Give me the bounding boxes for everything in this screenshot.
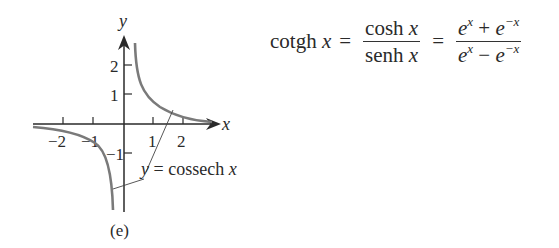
curve-negative-branch	[33, 127, 113, 210]
denominator: senh x	[363, 42, 420, 67]
y-ticks	[124, 65, 132, 153]
csch-graph: −2 −1 1 2 2 1 −1 y x y = cossech x (e)	[0, 0, 270, 248]
x-axis-label: x	[221, 114, 230, 134]
formula-lhs: cotgh x	[270, 29, 331, 54]
figure-caption: (e)	[110, 221, 129, 240]
svg-text:−2: −2	[48, 132, 66, 151]
svg-text:1: 1	[110, 86, 119, 105]
curve-positive-branch	[135, 43, 212, 122]
numerator: cosh x	[363, 16, 420, 42]
svg-text:2: 2	[110, 57, 119, 76]
numerator: ex + e−x	[456, 16, 521, 42]
denominator: ex − e−x	[456, 42, 521, 67]
fraction-cosh-over-senh: cosh x senh x	[363, 16, 420, 67]
cotgh-formula: cotgh x = cosh x senh x = ex + e−x ex − …	[270, 16, 525, 67]
equals-sign: =	[339, 29, 351, 54]
svg-text:−1: −1	[106, 145, 124, 164]
fraction-exponential: ex + e−x ex − e−x	[456, 16, 521, 67]
x-ticks	[63, 117, 183, 124]
svg-text:1: 1	[148, 132, 157, 151]
leader-line	[113, 179, 144, 189]
equals-sign: =	[432, 29, 444, 54]
y-axis-label: y	[117, 11, 127, 31]
svg-text:2: 2	[177, 132, 186, 151]
curve-label: y = cossech x	[139, 159, 237, 179]
